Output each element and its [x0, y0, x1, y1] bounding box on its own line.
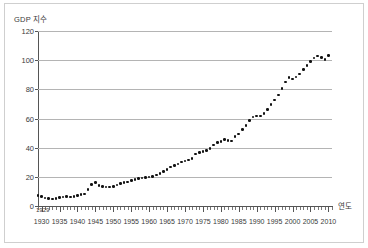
- x-tick-minor: [250, 207, 251, 210]
- y-tick-mark: [35, 31, 38, 32]
- data-point: [320, 56, 323, 59]
- x-tick-minor: [135, 207, 136, 210]
- x-tick-minor: [210, 207, 211, 210]
- x-tick-minor: [163, 207, 164, 210]
- x-tick-minor: [189, 207, 190, 210]
- data-point: [141, 177, 144, 180]
- data-point: [155, 174, 158, 177]
- data-point: [237, 133, 240, 136]
- data-point: [313, 57, 316, 60]
- x-tick-minor: [63, 207, 64, 210]
- data-point: [187, 159, 190, 162]
- x-tick-label: 1940: [70, 218, 86, 225]
- y-tick-mark: [35, 148, 38, 149]
- data-point: [90, 183, 93, 186]
- x-tick-minor: [92, 207, 93, 210]
- x-tick-major: [203, 207, 204, 212]
- y-tick-label: 60: [4, 114, 34, 123]
- x-tick-minor: [196, 207, 197, 210]
- data-point: [259, 115, 262, 118]
- data-point: [40, 195, 43, 198]
- data-point: [144, 176, 147, 179]
- chart-figure: GDP 지수 연도 020406080100120 19301935194019…: [0, 0, 368, 248]
- x-tick-label: 1960: [141, 218, 157, 225]
- data-point: [263, 112, 266, 115]
- x-tick-minor: [70, 207, 71, 210]
- data-point: [216, 141, 219, 144]
- x-tick-major: [328, 207, 329, 212]
- x-tick-minor: [224, 207, 225, 210]
- x-tick-minor: [271, 207, 272, 210]
- data-point: [288, 76, 291, 79]
- data-point: [62, 196, 65, 199]
- x-tick-minor: [67, 207, 68, 210]
- data-point: [273, 99, 276, 102]
- x-tick-minor: [146, 207, 147, 210]
- data-point: [173, 164, 176, 167]
- data-point: [169, 166, 172, 169]
- y-tick-mark: [35, 89, 38, 90]
- data-point: [277, 94, 280, 97]
- x-tick-minor: [321, 207, 322, 210]
- x-tick-minor: [120, 207, 121, 210]
- x-tick-minor: [178, 207, 179, 210]
- x-tick-minor: [110, 207, 111, 210]
- x-tick-minor: [181, 207, 182, 210]
- data-point: [324, 58, 327, 61]
- x-tick-minor: [267, 207, 268, 210]
- gridline: [38, 177, 332, 178]
- x-tick-label: 1955: [123, 218, 139, 225]
- x-tick-major: [185, 207, 186, 212]
- x-tick-minor: [253, 207, 254, 210]
- x-tick-minor: [52, 207, 53, 210]
- x-tick-minor: [199, 207, 200, 210]
- data-point: [245, 124, 248, 127]
- x-tick-minor: [260, 207, 261, 210]
- gridline: [38, 60, 332, 61]
- x-tick-minor: [156, 207, 157, 210]
- x-tick-minor: [289, 207, 290, 210]
- y-tick-label: 80: [4, 85, 34, 94]
- x-tick-minor: [153, 207, 154, 210]
- data-point: [65, 195, 68, 198]
- y-tick-label: 40: [4, 143, 34, 152]
- x-tick-minor: [56, 207, 57, 210]
- x-tick-minor: [228, 207, 229, 210]
- y-tick-mark: [35, 119, 38, 120]
- y-tick-label: 20: [4, 172, 34, 181]
- x-tick-minor: [307, 207, 308, 210]
- data-point: [220, 140, 223, 143]
- data-point: [105, 186, 108, 189]
- y-tick-label: 120: [4, 27, 34, 36]
- x-tick-minor: [128, 207, 129, 210]
- x-tick-minor: [303, 207, 304, 210]
- data-point: [316, 55, 319, 58]
- x-axis-title: 연도: [338, 200, 352, 211]
- data-point: [248, 119, 251, 122]
- data-point: [37, 194, 40, 197]
- x-tick-minor: [207, 207, 208, 210]
- x-tick-minor: [88, 207, 89, 210]
- data-point: [327, 54, 330, 57]
- x-tick-minor: [106, 207, 107, 210]
- x-tick-label: 1980: [213, 218, 229, 225]
- x-tick-major: [167, 207, 168, 212]
- x-tick-label: 1985: [231, 218, 247, 225]
- y-axis-title: GDP 지수: [14, 13, 47, 24]
- data-point: [255, 115, 258, 118]
- data-point: [58, 196, 61, 199]
- data-point: [69, 196, 72, 199]
- data-point: [298, 73, 301, 76]
- gridline: [38, 148, 332, 149]
- x-tick-minor: [217, 207, 218, 210]
- gridline: [38, 119, 332, 120]
- x-tick-label: 1930: [34, 218, 50, 225]
- gridline: [38, 31, 332, 32]
- x-tick-label: 2010: [321, 218, 337, 225]
- data-point: [116, 184, 119, 187]
- x-tick-minor: [103, 207, 104, 210]
- x-tick-label: 1970: [177, 218, 193, 225]
- x-tick-major: [310, 207, 311, 212]
- x-tick-minor: [318, 207, 319, 210]
- x-tick-label: 2005: [303, 218, 319, 225]
